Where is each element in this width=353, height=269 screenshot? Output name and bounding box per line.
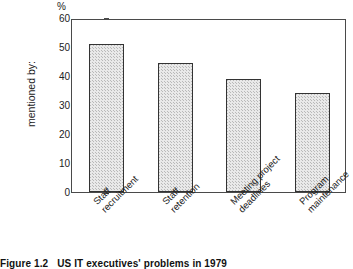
y-axis-tick-label: 10: [44, 159, 70, 169]
bar-2: [158, 63, 193, 192]
bars-layer: [72, 20, 345, 192]
y-axis-tick-label: 30: [44, 101, 70, 111]
y-axis-title: mentioned by:: [25, 39, 37, 149]
y-axis-ticks: 6050403020100: [38, 0, 70, 266]
y-axis-tick-label: 20: [44, 130, 70, 140]
figure-caption-text: US IT executives' problems in 1979: [57, 258, 227, 269]
figure-caption-number: Figure 1.2: [0, 258, 48, 269]
y-axis-tick-label: 0: [44, 188, 70, 198]
y-axis-tick-label: 60: [44, 14, 70, 24]
figure-caption: Figure 1.2US IT executives' problems in …: [0, 258, 227, 269]
plot-area: [71, 19, 346, 193]
y-axis-tick-label: 40: [44, 72, 70, 82]
y-axis-tick-label: 50: [44, 43, 70, 53]
